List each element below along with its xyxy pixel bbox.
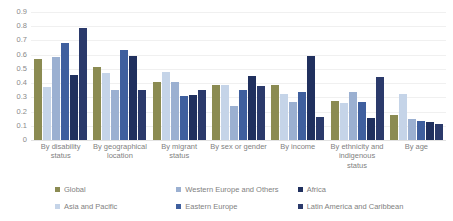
bar <box>129 56 137 140</box>
bar <box>230 106 238 140</box>
bar <box>399 94 407 140</box>
bar <box>358 102 366 140</box>
category-label: By geographical location <box>90 142 149 170</box>
bar <box>221 85 229 140</box>
bar <box>390 115 398 140</box>
bar <box>417 121 425 140</box>
bar <box>52 57 60 140</box>
y-axis-tick-label: 0.4 <box>17 79 27 87</box>
y-axis-tick-label: 0.7 <box>17 37 27 45</box>
category-axis: By disability statusBy geographical loca… <box>31 142 446 170</box>
category-label: By age <box>387 142 446 170</box>
legend-label: Eastern Europe <box>185 203 237 211</box>
bar <box>307 56 315 140</box>
y-axis-tick-label: 0.1 <box>17 122 27 130</box>
bar <box>171 82 179 140</box>
bar <box>61 43 69 140</box>
category-label: By ethnicity and indigenous status <box>327 142 386 170</box>
bar <box>93 67 101 140</box>
bar <box>239 90 247 140</box>
y-axis-tick-label: 0.9 <box>17 8 27 16</box>
bar <box>34 59 42 140</box>
bar <box>198 90 206 140</box>
bar <box>180 96 188 140</box>
bar <box>376 77 384 140</box>
bar <box>257 86 265 140</box>
bar-group <box>327 12 386 140</box>
bar-group <box>387 12 446 140</box>
legend-label: Western Europe and Others <box>185 186 278 194</box>
legend-label: Global <box>64 186 86 194</box>
category-label: By income <box>268 142 327 170</box>
bar <box>138 90 146 140</box>
bar-group <box>150 12 209 140</box>
y-axis-tick-label: 0.6 <box>17 51 27 59</box>
legend-item[interactable]: Eastern Europe <box>176 200 293 213</box>
bar <box>367 118 375 140</box>
bar <box>120 50 128 140</box>
category-label: By sex or gender <box>209 142 268 170</box>
legend-label: Africa <box>307 186 326 194</box>
bar <box>289 102 297 140</box>
bar <box>408 119 416 140</box>
bar <box>70 75 78 140</box>
category-label: By migrant status <box>150 142 209 170</box>
bar <box>248 76 256 140</box>
bar-chart: 0.90.80.70.60.50.40.30.20.10 By disabili… <box>0 0 453 221</box>
bar <box>111 90 119 140</box>
y-axis-tick-label: 0 <box>23 136 27 144</box>
y-axis-tick-label: 0.5 <box>17 65 27 73</box>
legend-label: Latin America and Caribbean <box>307 203 404 211</box>
legend-item[interactable]: Asia and Pacific <box>55 200 172 213</box>
bar <box>43 87 51 140</box>
legend-swatch-icon <box>55 204 60 209</box>
bar <box>189 95 197 140</box>
bar <box>349 92 357 140</box>
bar <box>79 28 87 140</box>
legend-label: Asia and Pacific <box>64 203 117 211</box>
y-axis-tick-label: 0.3 <box>17 94 27 102</box>
bar <box>340 103 348 140</box>
legend-swatch-icon <box>176 187 181 192</box>
bar <box>426 122 434 140</box>
bar <box>153 82 161 140</box>
bar <box>331 101 339 140</box>
legend-item[interactable]: Latin America and Caribbean <box>298 200 415 213</box>
legend-swatch-icon <box>298 187 303 192</box>
legend-swatch-icon <box>298 204 303 209</box>
legend-swatch-icon <box>176 204 181 209</box>
y-axis-tick-label: 0.2 <box>17 108 27 116</box>
y-axis-tick-label: 0.8 <box>17 22 27 30</box>
bars-layer <box>31 12 446 140</box>
category-label: By disability status <box>31 142 90 170</box>
bar-group <box>268 12 327 140</box>
bar <box>212 85 220 140</box>
bar <box>316 117 324 140</box>
legend-item[interactable]: Western Europe and Others <box>176 183 293 196</box>
bar <box>162 72 170 140</box>
bar-group <box>90 12 149 140</box>
bar-group <box>209 12 268 140</box>
bar <box>271 85 279 140</box>
plot-area: 0.90.80.70.60.50.40.30.20.10 <box>31 12 446 140</box>
legend-item[interactable]: Africa <box>298 183 415 196</box>
bar <box>280 94 288 140</box>
legend-swatch-icon <box>55 187 60 192</box>
bar <box>102 73 110 140</box>
bar-group <box>31 12 90 140</box>
bar <box>435 124 443 140</box>
axis-baseline: 0 <box>31 140 446 141</box>
chart-legend: GlobalWestern Europe and OthersAfricaAsi… <box>55 183 415 213</box>
legend-item[interactable]: Global <box>55 183 172 196</box>
bar <box>298 92 306 140</box>
